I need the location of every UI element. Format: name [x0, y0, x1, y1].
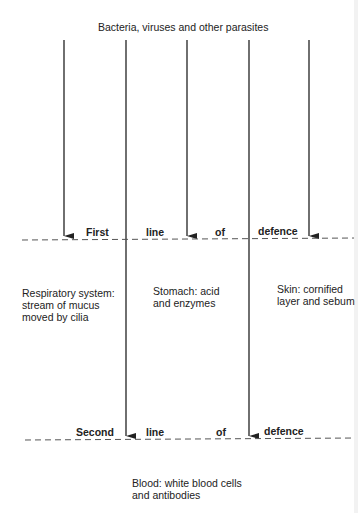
blood-label-1: Blood: white blood cells: [132, 477, 242, 489]
diagram-title: Bacteria, viruses and other parasites: [98, 21, 268, 33]
first-line-word-2: line: [146, 226, 164, 238]
second-line-word-3: of: [216, 426, 226, 438]
barrier-stomach-2: and enzymes: [153, 297, 215, 309]
first-line-word-1: First: [86, 226, 109, 238]
first-line-word-3: of: [215, 226, 225, 238]
first-line-dashed: [22, 238, 358, 240]
page-edge: [354, 0, 358, 513]
barrier-skin-1: Skin: cornified: [277, 283, 343, 295]
second-line-word-2: line: [146, 426, 164, 438]
blood-label-2: and antibodies: [132, 489, 200, 501]
diagram-canvas: [0, 0, 358, 513]
second-line-dashed: [25, 438, 358, 440]
second-line-word-1: Second: [76, 426, 114, 438]
first-line-word-4: defence: [258, 225, 298, 237]
second-line-word-4: defence: [264, 425, 304, 437]
barrier-stomach-1: Stomach: acid: [153, 285, 220, 297]
barrier-respiratory-1: Respiratory system:: [22, 287, 115, 299]
barrier-respiratory-3: moved by cilia: [22, 311, 89, 323]
barrier-skin-2: layer and sebum: [277, 295, 355, 307]
barrier-respiratory-2: stream of mucus: [22, 299, 100, 311]
